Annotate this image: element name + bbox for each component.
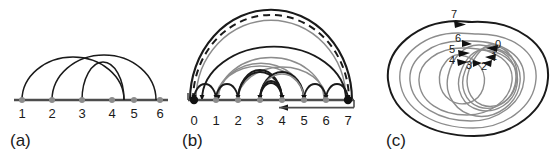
inner-arc-group-b [194, 47, 348, 100]
node-a-1 [19, 97, 25, 103]
figure-root: 1 2 3 4 5 6 (a) [0, 0, 557, 153]
outer-arc-group-b [190, 10, 352, 100]
tick-a-6: 6 [156, 106, 163, 121]
tick-b-7: 7 [344, 113, 351, 128]
node-b-5 [301, 97, 307, 103]
node-b-2 [235, 97, 241, 103]
node-b-7 [344, 96, 352, 104]
tick-a-5: 5 [130, 106, 137, 121]
node-a-4 [109, 97, 115, 103]
tick-b-6: 6 [322, 113, 329, 128]
label-c-2: 2 [481, 60, 487, 72]
label-c-3: 3 [466, 59, 472, 71]
tick-b-1: 1 [212, 113, 219, 128]
label-c-4: 4 [449, 54, 455, 66]
panel-b-caption: (b) [182, 131, 203, 151]
label-c-0: 0 [495, 38, 501, 50]
arc-group-a [22, 55, 156, 100]
tick-b-0: 0 [190, 113, 197, 128]
node-b-4 [279, 97, 285, 103]
label-c-7: 7 [451, 8, 457, 20]
panel-a: 1 2 3 4 5 6 (a) [0, 0, 176, 153]
panel-c-caption: (c) [386, 131, 406, 151]
node-a-2 [49, 97, 55, 103]
arc-b-0-7-solid-outer [190, 10, 352, 100]
loop-group-c [388, 21, 548, 136]
node-a-6 [157, 97, 163, 103]
tick-a-1: 1 [18, 106, 25, 121]
tick-a-3: 3 [78, 106, 85, 121]
panel-b-svg: 0 1 2 3 4 5 6 7 [176, 0, 376, 153]
node-b-0 [190, 96, 198, 104]
panel-b: 0 1 2 3 4 5 6 7 (b) [176, 0, 376, 153]
tick-a-2: 2 [48, 106, 55, 121]
tick-b-5: 5 [300, 113, 307, 128]
tick-label-group-b: 0 1 2 3 4 5 6 7 [190, 113, 351, 128]
panel-c: 7 6 5 4 3 2 1 0 (c) [376, 0, 557, 153]
node-b-6 [323, 97, 329, 103]
node-b-1 [213, 97, 219, 103]
tick-label-group-a: 1 2 3 4 5 6 [18, 106, 163, 121]
panel-a-caption: (a) [10, 131, 31, 151]
tick-b-4: 4 [278, 113, 285, 128]
label-c-1: 1 [491, 50, 497, 62]
label-c-6: 6 [455, 32, 461, 44]
node-b-3 [257, 97, 263, 103]
node-a-5 [131, 97, 137, 103]
tick-b-2: 2 [234, 113, 241, 128]
node-a-3 [79, 97, 85, 103]
arc-3-4 [82, 62, 124, 100]
tick-b-3: 3 [256, 113, 263, 128]
tick-a-4: 4 [108, 106, 115, 121]
